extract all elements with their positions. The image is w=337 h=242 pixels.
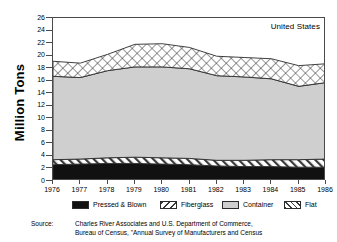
x-tick xyxy=(79,180,80,184)
x-tick xyxy=(189,180,190,184)
x-tick-label: 1979 xyxy=(126,186,142,194)
y-tick-label: 4 xyxy=(41,151,45,158)
x-tick-label: 1983 xyxy=(235,186,251,194)
y-axis-title: Million Tons xyxy=(12,43,27,163)
x-tick-label: 1977 xyxy=(72,186,88,194)
y-tick-label: 10 xyxy=(37,114,45,121)
y-tick-label: 24 xyxy=(37,26,45,33)
legend-item-flat[interactable]: Flat xyxy=(284,199,317,210)
legend-item-fiberglass[interactable]: Fiberglass xyxy=(160,199,213,210)
y-tick xyxy=(46,67,52,68)
y-tick xyxy=(46,142,52,143)
x-tick-label: 1976 xyxy=(44,186,60,194)
source-label: Source: xyxy=(31,220,53,229)
y-tick-label: 26 xyxy=(37,14,45,21)
legend-swatch-crosshatch xyxy=(284,201,301,209)
source-text: Charles River Associates and U.S. Depart… xyxy=(75,220,262,237)
x-tick xyxy=(298,180,299,184)
x-tick-label: 1984 xyxy=(263,186,279,194)
legend-swatch-light-gray xyxy=(222,201,239,209)
y-tick-label: 0 xyxy=(41,177,45,184)
y-tick-label: 16 xyxy=(37,76,45,83)
x-tick xyxy=(325,180,326,184)
x-tick-label: 1978 xyxy=(99,186,115,194)
chart-figure: Million Tons United States 0246810121416… xyxy=(0,0,337,242)
source-line-2: Bureau of Census, "Annual Survey of Manu… xyxy=(75,229,262,238)
x-tick-label: 1982 xyxy=(208,186,224,194)
y-tick-label: 6 xyxy=(41,139,45,146)
y-tick xyxy=(46,167,52,168)
x-tick xyxy=(134,180,135,184)
y-tick xyxy=(46,55,52,56)
x-tick xyxy=(161,180,162,184)
x-tick-label: 1980 xyxy=(153,186,169,194)
y-tick-label: 14 xyxy=(37,89,45,96)
x-tick xyxy=(52,180,53,184)
y-tick xyxy=(46,30,52,31)
legend-item-container[interactable]: Container xyxy=(222,199,273,210)
y-tick-label: 20 xyxy=(37,51,45,58)
legend-label: Pressed & Blown xyxy=(93,201,146,209)
y-tick-label: 22 xyxy=(37,39,45,46)
chart-legend: Pressed & BlownFiberglassContainerFlat xyxy=(52,199,325,210)
x-tick-label: 1986 xyxy=(317,186,333,194)
y-tick xyxy=(46,105,52,106)
y-tick xyxy=(46,42,52,43)
y-tick xyxy=(46,92,52,93)
y-tick-label: 2 xyxy=(41,164,45,171)
x-tick xyxy=(270,180,271,184)
y-tick xyxy=(46,130,52,131)
y-tick-label: 18 xyxy=(37,64,45,71)
legend-label: Fiberglass xyxy=(181,201,213,209)
legend-item-pressed-blown[interactable]: Pressed & Blown xyxy=(72,199,146,210)
stacked-area-svg xyxy=(53,18,325,180)
legend-label: Container xyxy=(243,201,273,209)
x-tick-label: 1985 xyxy=(290,186,306,194)
region-annotation: United States xyxy=(271,22,320,31)
x-tick xyxy=(216,180,217,184)
y-tick xyxy=(46,80,52,81)
source-line-1: Charles River Associates and U.S. Depart… xyxy=(75,220,262,229)
plot-area: United States xyxy=(52,17,325,180)
y-tick-label: 12 xyxy=(37,101,45,108)
x-tick xyxy=(107,180,108,184)
y-tick xyxy=(46,117,52,118)
legend-label: Flat xyxy=(305,201,317,209)
y-tick-label: 8 xyxy=(41,126,45,133)
x-tick-label: 1981 xyxy=(181,186,197,194)
x-tick xyxy=(243,180,244,184)
y-tick xyxy=(46,155,52,156)
y-tick xyxy=(46,17,52,18)
legend-swatch-diagonal-hatch xyxy=(160,201,177,209)
legend-swatch-solid-black xyxy=(72,201,89,209)
